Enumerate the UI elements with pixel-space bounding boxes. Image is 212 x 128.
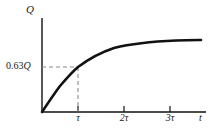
x-axis-label: t — [199, 113, 202, 123]
curve-path — [42, 40, 201, 112]
y-axis-label: Q — [26, 4, 34, 15]
threshold-value-label: 0.63Q — [6, 61, 31, 71]
x-tick-label-2tau: 2τ — [120, 113, 129, 123]
threshold-symbol: Q — [24, 60, 31, 71]
exponential-saturation-chart: Q t 0.63Q τ 2τ 3τ — [0, 0, 212, 128]
x-tick-label-3tau: 3τ — [166, 113, 175, 123]
threshold-number: 0.63 — [6, 60, 24, 71]
plot-canvas — [0, 0, 212, 128]
x-tick-label-tau: τ — [76, 113, 80, 123]
